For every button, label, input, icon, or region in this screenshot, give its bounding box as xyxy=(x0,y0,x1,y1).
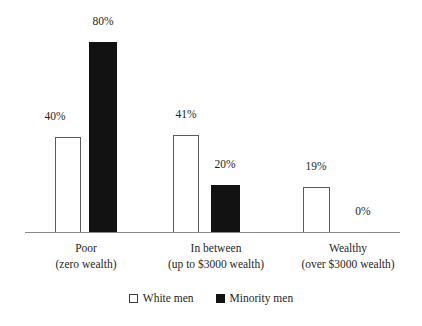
value-label-wealthy-minority: 0% xyxy=(339,205,387,218)
x-axis-category-labels: Poor (zero wealth) In between (up to $30… xyxy=(0,240,422,285)
category-label-wealthy-title: Wealthy xyxy=(329,242,367,254)
value-label-inbetween-minority: 20% xyxy=(201,158,249,171)
chart-legend: White men Minority men xyxy=(0,292,422,304)
legend-item-minority-men: Minority men xyxy=(216,292,294,304)
category-label-wealthy: Wealthy (over $3000 wealth) xyxy=(278,240,418,272)
category-label-inbetween: In between (up to $3000 wealth) xyxy=(146,240,286,272)
white-square-icon xyxy=(129,294,138,303)
bar-inbetween-minority xyxy=(211,185,240,233)
bar-wealthy-white xyxy=(303,187,330,233)
category-label-inbetween-sublabel: (up to $3000 wealth) xyxy=(146,256,286,272)
value-label-poor-minority: 80% xyxy=(79,15,127,28)
legend-label-minority-men: Minority men xyxy=(230,292,294,304)
value-label-poor-white: 40% xyxy=(31,110,79,123)
value-label-wealthy-white: 19% xyxy=(292,160,340,173)
category-label-inbetween-title: In between xyxy=(191,242,242,254)
black-square-icon xyxy=(216,294,225,303)
legend-label-white-men: White men xyxy=(143,292,194,304)
category-label-poor-sublabel: (zero wealth) xyxy=(26,256,146,272)
bar-poor-minority xyxy=(89,42,117,233)
legend-item-white-men: White men xyxy=(129,292,194,304)
category-label-poor: Poor (zero wealth) xyxy=(26,240,146,272)
x-axis-baseline xyxy=(25,232,400,233)
category-label-wealthy-sublabel: (over $3000 wealth) xyxy=(278,256,418,272)
bar-poor-white xyxy=(55,137,81,233)
value-label-inbetween-white: 41% xyxy=(162,108,210,121)
category-label-poor-title: Poor xyxy=(75,242,97,254)
plot-area: 40% 80% 41% 20% 19% 0% xyxy=(0,0,422,233)
bar-chart: 40% 80% 41% 20% 19% 0% Poor (zero wealth… xyxy=(0,0,422,326)
bar-inbetween-white xyxy=(173,135,199,233)
